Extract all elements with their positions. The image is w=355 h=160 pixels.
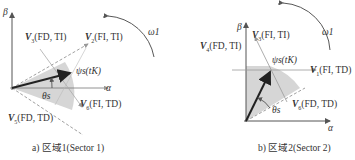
flux-label-a: ψs(tK): [76, 67, 101, 77]
v1-label-b: V1(FI, TD): [310, 66, 351, 77]
v5-label-a: V5(FD, TD): [8, 114, 53, 125]
v2-label-a: V2(FI, TI): [85, 33, 123, 44]
alpha-label-a: α: [106, 84, 111, 94]
v3-label-a: V3(FD, TI): [25, 33, 66, 44]
beta-label-b: β: [237, 23, 242, 33]
diagram-canvas: [0, 0, 355, 160]
v3-label-b: V3(FI, TI): [252, 31, 290, 42]
theta-label-a: θs: [42, 92, 50, 102]
caption-a: a) 区域1(Sector 1): [32, 140, 104, 154]
omega-label-a: ω1: [148, 28, 159, 38]
caption-b: b) 区域2(Sector 2): [258, 140, 331, 154]
v4-label-b: V4(FD, TI): [200, 42, 241, 53]
theta-label-b: θs: [272, 106, 280, 116]
flux-label-b: ψs(tK): [272, 56, 297, 66]
alpha-label-b: α: [328, 124, 333, 134]
beta-label-a: β: [3, 8, 8, 18]
v6-label-b: V6(FD, TD): [292, 100, 337, 111]
v6-label-a: V6(FI, TD): [80, 100, 121, 111]
omega-label-b: ω1: [322, 28, 333, 38]
